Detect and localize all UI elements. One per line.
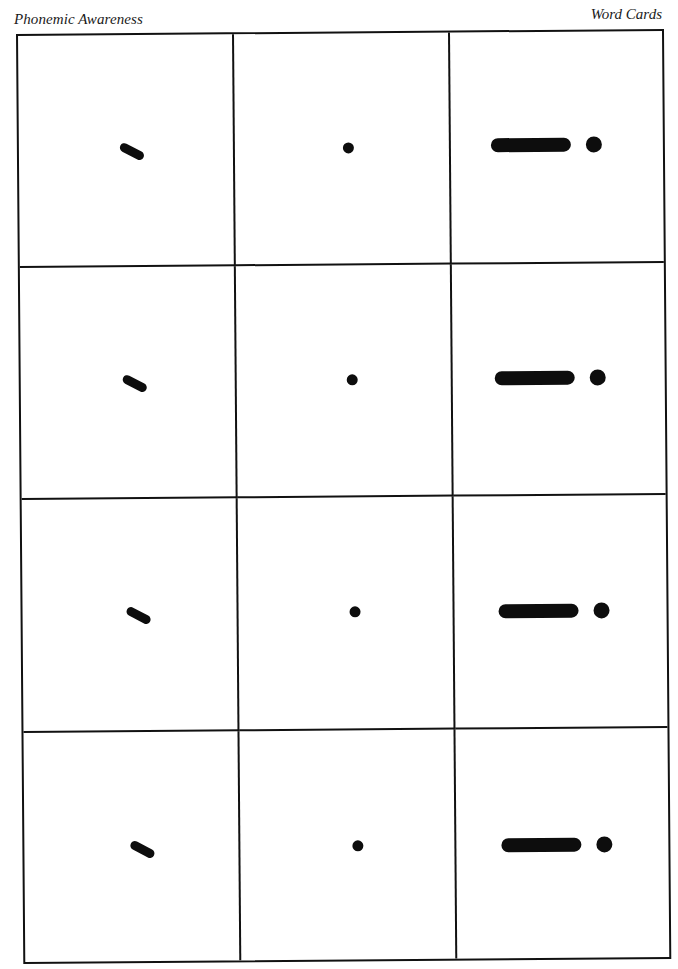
long-bar-icon (495, 371, 575, 386)
long-bar-icon (491, 138, 571, 153)
long-bar-icon (501, 838, 581, 853)
slanted-dash-icon (129, 840, 156, 860)
large-dot-icon (593, 602, 609, 618)
word-card-r2-c1 (20, 266, 238, 500)
large-dot-icon (590, 369, 606, 385)
word-card-r3-c1 (22, 498, 240, 733)
word-card-r1-c2 (234, 33, 452, 267)
worksheet-title-left: Phonemic Awareness (14, 11, 143, 28)
word-card-r2-c2 (236, 265, 454, 499)
slanted-dash-icon (121, 374, 148, 394)
card-sheet (16, 29, 671, 964)
small-dot-icon (350, 606, 361, 617)
word-card-r4-c2 (239, 730, 457, 961)
card-grid (16, 29, 671, 964)
large-dot-icon (596, 836, 612, 852)
word-card-r3-c3 (454, 495, 668, 730)
slanted-dash-icon (125, 606, 152, 626)
word-card-r2-c3 (452, 263, 666, 497)
slanted-dash-icon (118, 142, 145, 162)
small-dot-icon (347, 374, 358, 385)
word-card-r3-c2 (238, 497, 456, 732)
long-bar-icon (498, 604, 578, 619)
small-dot-icon (343, 142, 354, 153)
word-card-r1-c3 (450, 31, 664, 265)
word-card-r1-c1 (18, 34, 236, 268)
large-dot-icon (586, 136, 602, 152)
worksheet-title-right: Word Cards (591, 6, 662, 23)
word-card-r4-c3 (455, 728, 669, 959)
small-dot-icon (352, 840, 363, 851)
word-card-r4-c1 (23, 731, 241, 962)
